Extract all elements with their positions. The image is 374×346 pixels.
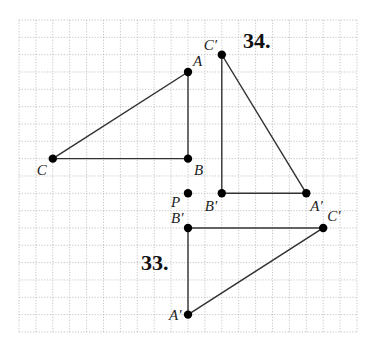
p34-image-point-a-prime <box>302 189 310 197</box>
p34-original-label-c: C <box>37 162 48 178</box>
p34-image-point-c-prime <box>218 50 226 58</box>
p34-original-point-c <box>49 154 57 162</box>
p33-image-point-c-prime <box>319 224 327 232</box>
p33-image-triangle <box>188 228 323 315</box>
p34-image-label-c-prime: C′ <box>204 37 218 53</box>
p33-image-point-a-prime <box>184 310 192 318</box>
p33-image-label-a-prime: A′ <box>168 307 182 323</box>
p34-image-point-b-prime <box>218 189 226 197</box>
triangles <box>53 55 323 315</box>
p34-original-point-a <box>184 68 192 76</box>
p34-image-label-a-prime: A′ <box>309 198 323 214</box>
p33-image-label-c-prime: C′ <box>327 208 341 224</box>
center-label-p: P <box>170 194 180 210</box>
vertex-labels: ABCC′B′A′B′C′A′P <box>37 37 341 323</box>
p34-image-label-b-prime: B′ <box>205 198 218 214</box>
p34-original-point-b <box>184 154 192 162</box>
p34-original-label-a: A <box>192 53 203 69</box>
center-point-p <box>184 189 192 197</box>
p34-original-label-b: B <box>194 162 203 178</box>
problem-number-33: 33. <box>141 250 169 275</box>
coordinate-grid-figure: ABCC′B′A′B′C′A′P 34. 33. <box>0 0 374 346</box>
p33-image-label-b-prime: B′ <box>171 210 184 226</box>
p33-image-point-b-prime <box>184 224 192 232</box>
problem-number-34: 34. <box>243 28 271 53</box>
